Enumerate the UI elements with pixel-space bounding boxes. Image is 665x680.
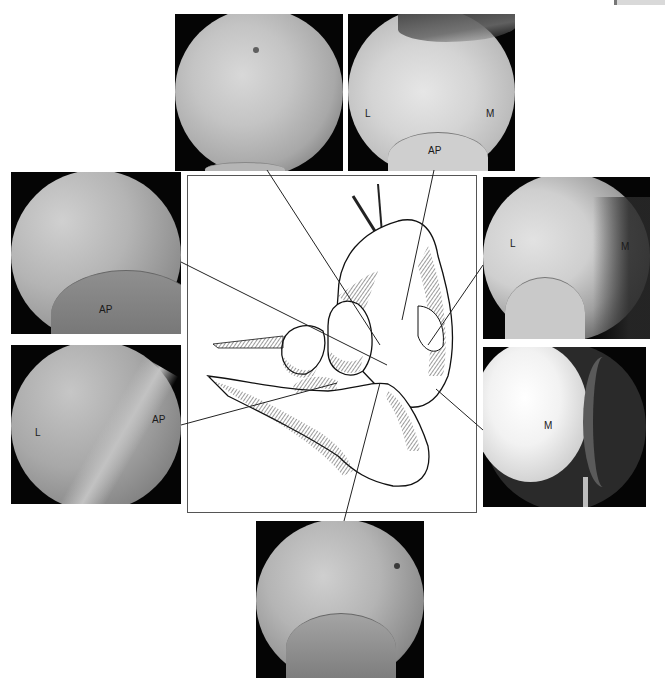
leader-line-right-lower bbox=[436, 389, 483, 430]
leader-line-right-upper bbox=[428, 265, 483, 345]
leader-line-left-upper bbox=[181, 262, 387, 365]
leader-lines bbox=[0, 0, 665, 680]
leader-line-top-left bbox=[267, 170, 380, 345]
leader-line-left-lower bbox=[181, 383, 337, 425]
leader-line-top-right bbox=[402, 170, 434, 320]
leader-line-bottom bbox=[344, 383, 380, 521]
